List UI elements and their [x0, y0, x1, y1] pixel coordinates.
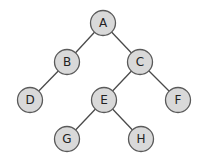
- node-a-label: A: [99, 16, 108, 30]
- node-g: G: [55, 127, 80, 152]
- node-e-label: E: [100, 93, 108, 107]
- tree-diagram: A B C D E F G: [0, 0, 199, 166]
- node-c: C: [128, 50, 153, 75]
- node-a: A: [91, 11, 116, 36]
- node-d: D: [18, 88, 43, 113]
- node-f: F: [166, 88, 191, 113]
- tree-svg: A B C D E F G: [0, 0, 199, 166]
- edges-group: [30, 23, 178, 139]
- node-g-label: G: [62, 132, 71, 146]
- node-c-label: C: [136, 55, 144, 69]
- node-d-label: D: [25, 93, 34, 107]
- node-h: H: [129, 127, 154, 152]
- node-b-label: B: [63, 55, 71, 69]
- node-f-label: F: [175, 93, 182, 107]
- nodes-group: A B C D E F G: [18, 11, 191, 152]
- node-b: B: [55, 50, 80, 75]
- node-e: E: [92, 88, 117, 113]
- node-h-label: H: [136, 132, 145, 146]
